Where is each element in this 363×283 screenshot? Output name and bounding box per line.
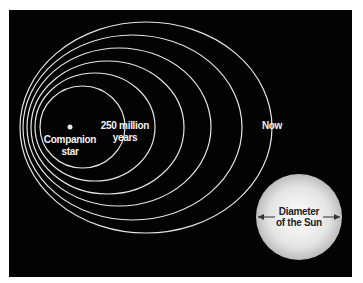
orbit-250-million-years-label-line2: years — [113, 132, 138, 143]
sun-diameter-label-line2: of the Sun — [276, 217, 322, 228]
orbit-now-label: Now — [262, 120, 283, 131]
companion-star-dot — [68, 125, 73, 130]
companion-star-label-line1: Companion — [44, 134, 96, 145]
orbit-diagram: Companion star 250 million years Now Dia… — [0, 0, 363, 283]
orbit-250-million-years-label-line1: 250 million — [101, 120, 150, 131]
companion-star-label-line2: star — [61, 146, 79, 157]
sun-diameter-label-line1: Diameter — [279, 206, 320, 217]
